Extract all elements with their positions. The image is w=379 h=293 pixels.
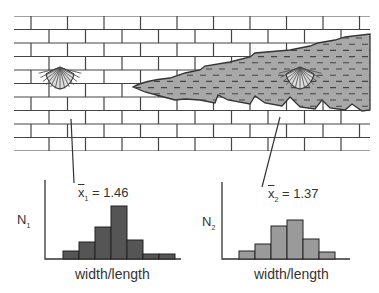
shale-wedge [133, 34, 375, 111]
histogram-1-xlabel: width/length [75, 266, 150, 282]
mean-value: = 1.46 [88, 185, 128, 200]
ylabel-subscript: 2 [211, 224, 215, 231]
histogram-bar [271, 226, 287, 259]
histogram-2-ylabel: N2 [202, 214, 215, 231]
ylabel-text: N [202, 214, 211, 229]
histogram-bar [63, 251, 79, 259]
histogram-bar [143, 254, 159, 259]
histogram-bar [111, 206, 127, 259]
histogram-1-ylabel: N1 [17, 212, 30, 229]
histogram-bar [319, 252, 335, 259]
histogram-1-mean: x1 = 1.46 [78, 185, 129, 202]
histogram-1-bars [63, 206, 175, 259]
histogram-bar [95, 227, 111, 259]
histogram-bar [239, 251, 255, 259]
ylabel-subscript: 1 [26, 222, 30, 229]
histogram-bar [255, 244, 271, 259]
mean-value: = 1.37 [278, 186, 318, 201]
histogram-bar [79, 242, 95, 259]
connector-line-2 [262, 117, 280, 187]
histogram-bar [127, 240, 143, 259]
histogram-bar [287, 220, 303, 259]
histogram-bar [159, 254, 175, 259]
histogram-2-bars [239, 220, 335, 259]
histogram-2-mean: x2 = 1.37 [268, 186, 319, 203]
histogram-bar [303, 239, 319, 259]
ylabel-text: N [17, 212, 26, 227]
histogram-2-xlabel: width/length [254, 266, 329, 282]
diagram-canvas [0, 0, 379, 293]
